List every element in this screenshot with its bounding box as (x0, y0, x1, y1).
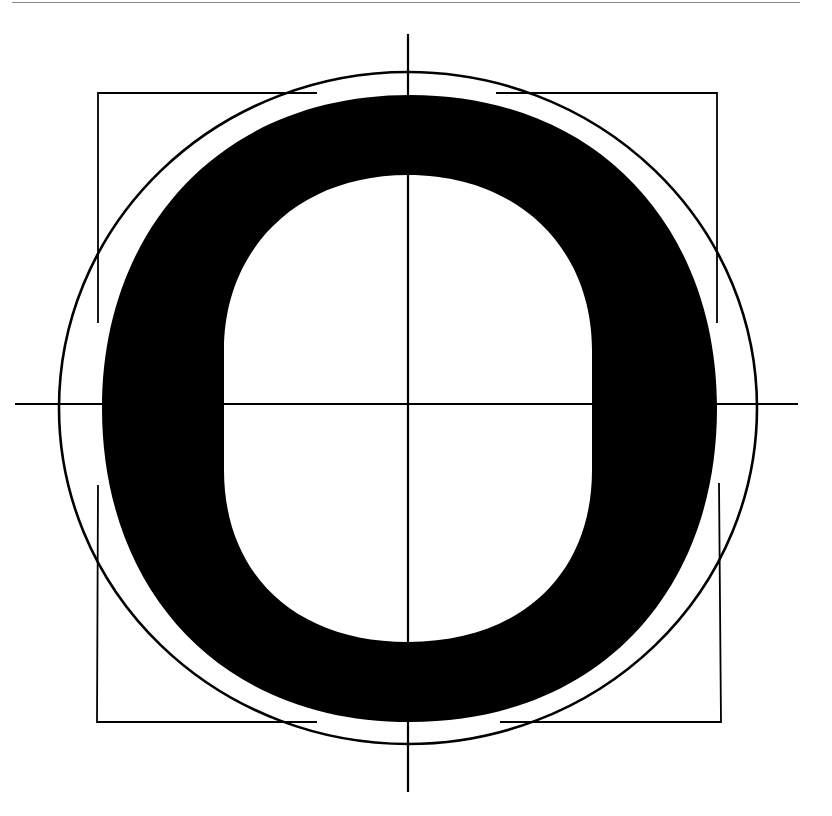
letter-o-construction-diagram (0, 0, 832, 816)
letter-o-glyph (102, 95, 717, 722)
